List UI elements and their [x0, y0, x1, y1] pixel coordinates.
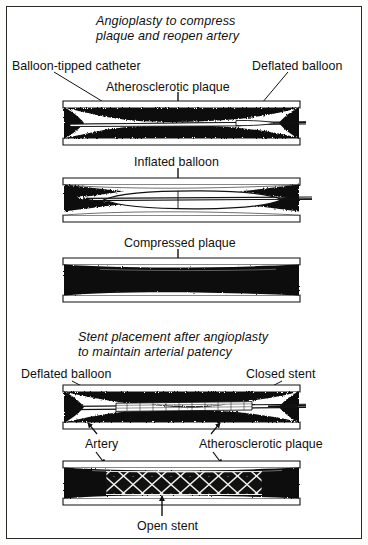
illustration-page: Angioplasty to compress plaque and reope… [0, 0, 368, 545]
panel-3-artery-compressed-plaque [63, 258, 300, 302]
panel-5-artery-open-stent [63, 461, 300, 505]
panel-2-artery-balloon-inflated [63, 178, 312, 222]
illustration-canvas [0, 0, 368, 545]
panel-1-artery-with-catheter [63, 101, 306, 145]
panel-4-artery-closed-stent [63, 385, 306, 429]
open-stent-mesh [106, 472, 262, 495]
